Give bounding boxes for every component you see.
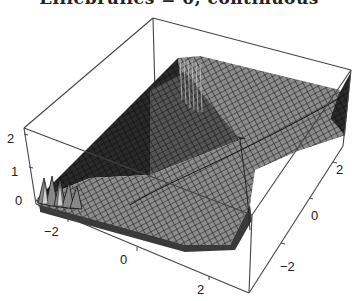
y-tick-2: 2	[336, 162, 343, 177]
y-tick-neg2: −2	[280, 259, 295, 274]
x-tick-neg2: −2	[44, 224, 59, 239]
surface-plot: 2 1 0 −2 0 2 −2 0 2	[0, 0, 358, 301]
x-tick-2: 2	[197, 282, 204, 297]
surface-mesh	[36, 56, 351, 252]
z-tick-1: 1	[11, 164, 18, 179]
x-tick-0: 0	[120, 252, 127, 267]
z-tick-2: 2	[7, 131, 14, 146]
y-tick-0: 0	[311, 208, 318, 223]
z-tick-0: 0	[15, 193, 22, 208]
